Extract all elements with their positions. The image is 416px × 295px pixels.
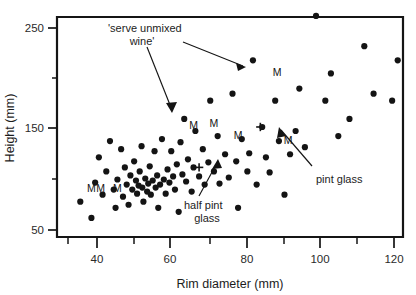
- data-point: [196, 173, 202, 179]
- data-point: [276, 138, 282, 144]
- y-tick-label-150: 150: [25, 122, 44, 134]
- data-point: [183, 178, 189, 184]
- data-point: [120, 194, 126, 200]
- scatter-plot-figure: 250 150 50 40 60 80 100 120 Rim diameter: [0, 0, 416, 295]
- data-point: [328, 70, 334, 76]
- arrowhead-serve-unmixed-wine-right: [236, 63, 246, 71]
- letter-markers-layer: MMMMMMMM: [87, 66, 293, 193]
- data-point: [129, 187, 135, 193]
- data-point: [159, 136, 165, 142]
- data-point: [226, 174, 232, 180]
- arrowhead-half-pint-glass: [212, 159, 222, 169]
- y-tick-label-50: 50: [31, 224, 44, 236]
- leader-serve-unmixed-wine-left: [147, 47, 172, 110]
- y-axis-tick-labels: 250 150 50: [25, 22, 44, 236]
- data-point: [216, 180, 222, 186]
- letter-marker: M: [189, 119, 198, 131]
- data-point: [112, 205, 118, 211]
- data-point: [161, 176, 167, 182]
- data-point: [254, 181, 260, 187]
- data-point: [244, 168, 250, 174]
- plus-markers-layer: [195, 123, 265, 172]
- data-point: [222, 151, 228, 157]
- data-point: [235, 205, 241, 211]
- data-points-layer: [77, 13, 401, 221]
- data-point: [246, 150, 252, 156]
- data-point: [207, 98, 213, 104]
- data-point: [200, 146, 206, 152]
- data-point: [346, 116, 352, 122]
- data-point: [250, 57, 256, 63]
- data-point: [88, 215, 94, 221]
- data-point: [215, 133, 221, 139]
- x-axis-tick-labels: 40 60 80 100 120: [91, 253, 404, 265]
- data-point: [138, 143, 144, 149]
- data-point: [205, 159, 211, 165]
- annotation-half-pint-glass-line2: glass: [194, 212, 220, 224]
- x-tick-label-40: 40: [91, 253, 104, 265]
- data-point: [389, 98, 395, 104]
- x-tick-label-100: 100: [310, 253, 329, 265]
- data-point: [179, 171, 185, 177]
- data-point: [157, 181, 163, 187]
- data-point: [96, 154, 102, 160]
- data-point: [147, 163, 153, 169]
- x-axis-title: Rim diameter (mm): [177, 277, 284, 291]
- annotation-pint-glass-line1: pint glass: [316, 173, 363, 185]
- data-point: [168, 148, 174, 154]
- arrowhead-serve-unmixed-wine-left: [166, 102, 177, 113]
- annotation-serve-unmixed-wine-line1: 'serve unmixed: [108, 22, 182, 34]
- data-point: [189, 189, 195, 195]
- data-point: [148, 192, 154, 198]
- data-point: [124, 181, 130, 187]
- data-point: [155, 205, 161, 211]
- data-point: [361, 43, 367, 49]
- data-point: [263, 154, 269, 160]
- annotation-serve-unmixed-wine-line2: wine': [129, 35, 155, 47]
- data-point: [296, 86, 302, 92]
- data-point: [103, 168, 109, 174]
- data-point: [164, 166, 170, 172]
- x-tick-label-120: 120: [384, 253, 403, 265]
- letter-marker: M: [210, 117, 219, 129]
- leader-serve-unmixed-wine-right: [183, 42, 243, 66]
- data-point: [163, 191, 169, 197]
- data-point: [293, 128, 299, 134]
- plus-marker: [195, 163, 203, 171]
- annotation-half-pint-glass-line1: half pint: [184, 199, 223, 211]
- data-point: [107, 138, 113, 144]
- data-point: [313, 13, 319, 19]
- data-point: [287, 151, 293, 157]
- plus-marker: [256, 123, 264, 131]
- letter-marker: M: [234, 129, 243, 141]
- data-point: [150, 177, 156, 183]
- data-point: [176, 209, 182, 215]
- data-point: [125, 202, 131, 208]
- data-point: [267, 169, 273, 175]
- data-point: [118, 146, 124, 152]
- data-point: [177, 139, 183, 145]
- data-point: [134, 191, 140, 197]
- data-point: [335, 133, 341, 139]
- data-point: [140, 199, 146, 205]
- y-axis-title: Height (mm): [3, 94, 17, 163]
- data-point: [233, 158, 239, 164]
- data-point: [172, 187, 178, 193]
- data-point: [151, 148, 157, 154]
- data-point: [77, 199, 83, 205]
- letter-marker: M: [273, 66, 282, 78]
- x-tick-label-60: 60: [164, 253, 177, 265]
- data-point: [127, 172, 133, 178]
- letter-marker: M: [87, 182, 96, 194]
- data-point: [154, 172, 160, 178]
- data-point: [185, 156, 191, 162]
- data-point: [166, 179, 172, 185]
- annotation-leaders: [147, 42, 312, 196]
- data-point: [181, 116, 187, 122]
- x-axis-ticks: [68, 237, 394, 248]
- plot-frame: [57, 17, 403, 237]
- data-point: [229, 91, 235, 97]
- data-point: [131, 158, 137, 164]
- y-tick-label-250: 250: [25, 22, 44, 34]
- y-axis-ticks: [48, 28, 57, 230]
